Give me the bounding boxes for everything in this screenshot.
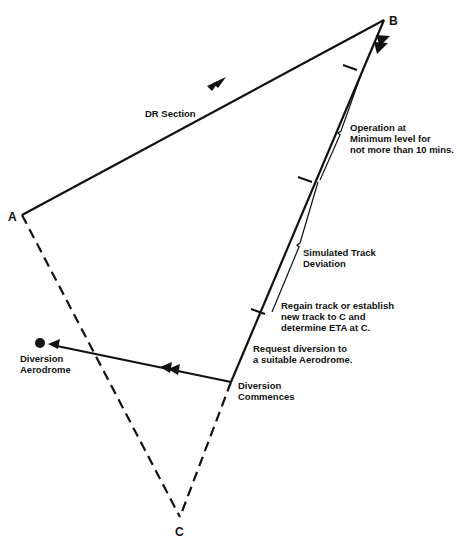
regain-track-label: Regain track or establish new track to C… bbox=[281, 300, 397, 333]
dr-section-leg bbox=[22, 20, 384, 215]
point-label-a: A bbox=[8, 210, 17, 224]
navigation-diagram: B A C DR Section Operation at Minimum le… bbox=[0, 0, 462, 547]
arrow-icon bbox=[48, 339, 60, 349]
diversion-aerodrome-label: Diversion Aerodrome bbox=[20, 353, 71, 375]
diversion-commences-label: Diversion Commences bbox=[238, 380, 295, 402]
tick-mark bbox=[251, 309, 265, 314]
point-label-c: C bbox=[175, 525, 184, 539]
point-label-b: B bbox=[389, 14, 398, 28]
planned-leg-c bbox=[180, 382, 231, 517]
simulated-deviation-label: Simulated Track Deviation bbox=[303, 247, 379, 269]
tick-mark bbox=[298, 177, 312, 182]
operation-label: Operation at Minimum level for not more … bbox=[350, 122, 454, 155]
arrow-icon bbox=[207, 77, 226, 91]
arrow-icon bbox=[160, 362, 180, 375]
diversion-leg bbox=[52, 345, 231, 382]
tick-mark bbox=[343, 65, 357, 70]
request-diversion-label: Request diversion to a suitable Aerodrom… bbox=[253, 343, 352, 365]
dr-section-label: DR Section bbox=[145, 108, 196, 119]
aerodrome-dot bbox=[35, 338, 45, 348]
